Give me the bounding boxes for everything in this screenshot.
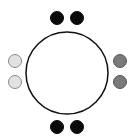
round-table <box>26 32 108 114</box>
seat-left-3 <box>9 76 22 89</box>
seat-top-1 <box>71 12 84 25</box>
seat-right-5 <box>114 76 127 89</box>
seat-top-0 <box>51 12 64 25</box>
seat-left-2 <box>9 55 22 68</box>
seat-right-4 <box>114 55 127 68</box>
seating-diagram <box>0 0 137 139</box>
seat-bottom-7 <box>71 121 84 134</box>
seat-bottom-6 <box>51 121 64 134</box>
